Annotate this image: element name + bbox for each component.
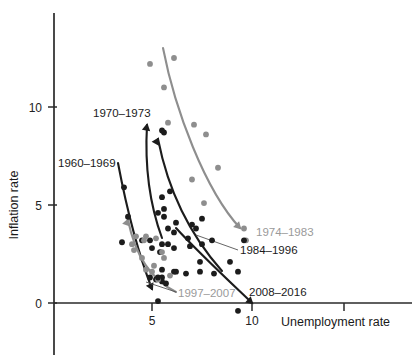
- data-point: [153, 235, 159, 241]
- data-point: [187, 243, 193, 249]
- data-point: [161, 214, 167, 220]
- trend-curve-1974-1983: [163, 48, 240, 228]
- data-point: [159, 128, 165, 134]
- data-point: [129, 241, 135, 247]
- data-point: [151, 263, 157, 269]
- data-point: [185, 235, 191, 241]
- data-points-layer: [119, 55, 249, 314]
- data-point: [197, 259, 203, 265]
- data-point: [241, 226, 247, 232]
- data-point: [155, 298, 161, 304]
- data-point: [199, 241, 205, 247]
- data-point: [183, 271, 189, 277]
- data-point: [155, 275, 161, 281]
- phillips-curve-figure: 1960–19691970–19731974–19831984–19961997…: [0, 0, 419, 362]
- series-labels-layer: 1960–19691970–19731974–19831984–19961997…: [58, 107, 314, 299]
- y-tick-label-10: 10: [29, 101, 43, 115]
- data-point: [141, 237, 147, 243]
- data-point: [171, 245, 177, 251]
- series-label-1960-1969: 1960–1969: [58, 157, 116, 169]
- trend-curve-1984-1996: [158, 139, 222, 271]
- data-point: [165, 241, 171, 247]
- data-point: [227, 259, 233, 265]
- data-point: [131, 247, 137, 253]
- data-point: [161, 255, 167, 261]
- data-point: [161, 206, 167, 212]
- x-tick-label-10: 10: [245, 314, 259, 328]
- data-point: [235, 308, 241, 314]
- data-point: [159, 241, 165, 247]
- data-point: [189, 222, 195, 228]
- data-point: [159, 249, 165, 255]
- data-point: [241, 237, 247, 243]
- data-point: [197, 269, 203, 275]
- data-point: [159, 194, 165, 200]
- series-label-2008-2016: 2008–2016: [249, 286, 307, 298]
- data-point: [121, 184, 127, 190]
- arrowhead-1970-1973: [142, 123, 150, 131]
- y-axis-title: Inflation rate: [7, 171, 21, 240]
- axes-layer: [48, 13, 412, 355]
- data-point: [173, 220, 179, 226]
- data-point: [165, 120, 171, 126]
- data-point: [171, 55, 177, 61]
- series-label-1970-1973: 1970–1973: [93, 107, 151, 119]
- data-point: [201, 200, 207, 206]
- data-point: [235, 269, 241, 275]
- series-label-1984-1996: 1984–1996: [240, 244, 298, 256]
- data-point: [155, 210, 161, 216]
- data-point: [209, 237, 215, 243]
- data-point: [143, 267, 149, 273]
- data-point: [149, 269, 155, 275]
- data-point: [139, 255, 145, 261]
- data-point: [165, 226, 171, 232]
- data-point: [161, 85, 167, 91]
- series-label-1974-1983: 1974–1983: [256, 226, 314, 238]
- data-point: [133, 233, 139, 239]
- data-point: [163, 281, 169, 287]
- arrowhead-1984-1996: [152, 137, 159, 146]
- data-point: [211, 271, 217, 277]
- data-point: [125, 214, 131, 220]
- data-point: [191, 122, 197, 128]
- data-point: [173, 269, 179, 275]
- data-point: [199, 216, 205, 222]
- data-point: [203, 132, 209, 138]
- data-point: [215, 165, 221, 171]
- data-point: [159, 267, 165, 273]
- data-point: [147, 61, 153, 67]
- y-tick-label-0: 0: [35, 297, 42, 311]
- trend-curves-layer: [118, 48, 253, 304]
- y-tick-label-5: 5: [35, 199, 42, 213]
- x-tick-label-5: 5: [149, 314, 156, 328]
- x-axis-title: Unemployment rate: [281, 315, 390, 329]
- data-point: [167, 273, 173, 279]
- series-label-1997-2007: 1997–2007: [178, 287, 236, 299]
- data-point: [149, 245, 155, 251]
- data-point: [147, 275, 153, 281]
- data-point: [167, 188, 173, 194]
- data-point: [119, 239, 125, 245]
- scatter-plot-canvas: 1960–19691970–19731974–19831984–19961997…: [0, 0, 419, 362]
- data-point: [189, 177, 195, 183]
- data-point: [171, 230, 177, 236]
